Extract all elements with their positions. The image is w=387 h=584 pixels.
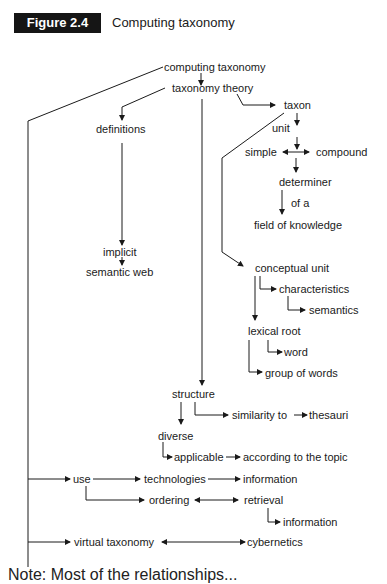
node-virtual-taxonomy: virtual taxonomy	[74, 536, 154, 549]
node-semantic-web: semantic web	[86, 266, 153, 279]
node-word: word	[284, 346, 308, 359]
node-taxonomy-theory: taxonomy theory	[172, 82, 253, 95]
node-according-to-the-topic: according to the topic	[243, 451, 348, 464]
node-retrieval: retrieval	[244, 494, 283, 507]
node-taxon: taxon	[284, 99, 311, 112]
node-characteristics: characteristics	[279, 283, 349, 296]
node-thesauri: thesauri	[309, 409, 348, 422]
footer-note-cutoff: Note: Most of the relationships...	[8, 566, 237, 584]
node-definitions: definitions	[96, 123, 146, 136]
node-semantics: semantics	[309, 304, 359, 317]
node-of-a: of a	[291, 197, 309, 210]
node-applicable: applicable	[174, 451, 224, 464]
node-cybernetics: cybernetics	[247, 536, 303, 549]
node-conceptual-unit: conceptual unit	[255, 262, 329, 275]
node-computing-taxonomy: computing taxonomy	[164, 61, 266, 74]
node-structure: structure	[172, 388, 215, 401]
node-compound: compound	[316, 146, 367, 159]
node-ordering: ordering	[149, 494, 189, 507]
node-information-2: information	[283, 516, 337, 529]
node-similarity-to: similarity to	[232, 409, 287, 422]
node-technologies: technologies	[144, 473, 206, 486]
node-implicit: implicit	[103, 246, 137, 259]
node-use: use	[73, 473, 91, 486]
node-diverse: diverse	[158, 430, 193, 443]
node-simple: simple	[245, 146, 277, 159]
node-determiner: determiner	[279, 176, 332, 189]
node-group-of-words: group of words	[265, 367, 338, 380]
node-unit: unit	[272, 122, 290, 135]
node-information-1: information	[243, 473, 297, 486]
node-field-of-knowledge: field of knowledge	[254, 219, 342, 232]
node-lexical-root: lexical root	[248, 325, 301, 338]
